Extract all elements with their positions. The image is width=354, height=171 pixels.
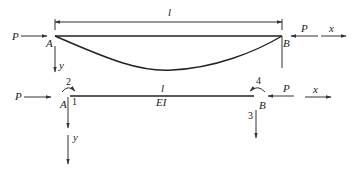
length-label: l — [168, 6, 171, 18]
rotation-dof-2: 2 — [62, 76, 75, 92]
dof-label-1: 1 — [72, 96, 77, 107]
x-axis-label: x — [312, 83, 318, 95]
force-label-right: P — [300, 22, 308, 34]
right-axial-force-bottom: P — [268, 82, 294, 96]
left-axial-force-bottom: P — [14, 90, 51, 102]
y-axis-top: y — [55, 46, 64, 72]
y-axis-label: y — [72, 131, 78, 143]
top-figure: l P A y B P x — [11, 6, 346, 72]
force-label-left: P — [11, 30, 19, 42]
rotation-arc-icon — [250, 88, 265, 92]
beam-diagram: l P A y B P x l — [0, 0, 354, 171]
y-axis-label: y — [58, 59, 64, 71]
rotation-dof-4: 4 — [250, 75, 265, 92]
force-label-left: P — [14, 90, 22, 102]
x-axis-top: x — [321, 22, 346, 36]
y-axis-bottom: y — [68, 131, 78, 164]
support-a-label: A — [45, 37, 53, 49]
element-length-label: l — [161, 82, 164, 94]
right-axial-force: P — [291, 22, 318, 36]
buckled-shape-curve — [55, 36, 282, 70]
left-axial-force: P — [11, 30, 47, 42]
bottom-figure: l EI P 2 A 1 y 4 B 3 — [14, 75, 331, 164]
length-dimension: l — [55, 6, 282, 30]
x-axis-label: x — [328, 22, 334, 34]
dof-label-2: 2 — [66, 76, 71, 87]
x-axis-bottom: x — [305, 83, 331, 97]
force-label-right: P — [282, 82, 290, 94]
support-b-label: B — [283, 37, 290, 49]
node-a-label: A — [59, 98, 67, 110]
rotation-arc-icon — [62, 88, 75, 92]
stiffness-label: EI — [155, 96, 168, 108]
dof-label-4: 4 — [256, 75, 261, 86]
dof-label-3: 3 — [248, 110, 253, 121]
node-b-label: B — [259, 99, 266, 111]
